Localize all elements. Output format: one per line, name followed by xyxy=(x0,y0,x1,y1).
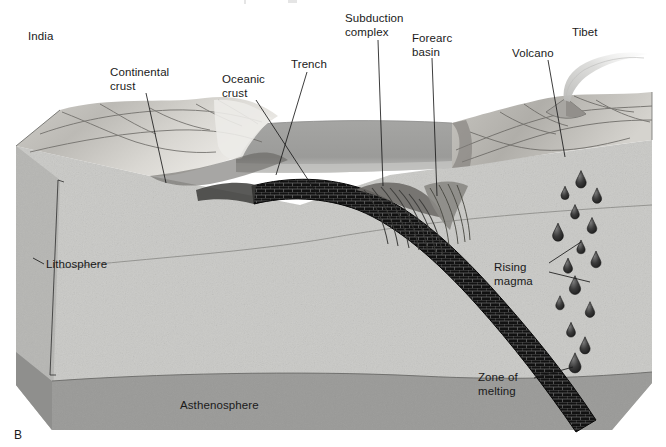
label-zone-of-melting: Zone ofmelting xyxy=(478,371,518,398)
label-subduction-complex-line2: complex xyxy=(345,26,389,38)
label-continental-crust-line2: crust xyxy=(110,80,135,92)
label-india: India xyxy=(28,30,53,44)
figure-letter: B xyxy=(14,428,22,442)
label-continental-crust-line1: Continental xyxy=(110,66,169,78)
label-trench: Trench xyxy=(291,58,327,72)
label-forearc-basin-line1: Forearc xyxy=(412,32,452,44)
scan-artifact-marks xyxy=(244,0,297,4)
label-rising-magma: Risingmagma xyxy=(494,261,533,288)
label-tibet: Tibet xyxy=(572,26,598,40)
label-oceanic-crust-line1: Oceanic xyxy=(222,73,265,85)
label-lithosphere: Lithosphere xyxy=(46,258,107,272)
label-forearc-basin-line2: basin xyxy=(412,46,440,58)
label-oceanic-crust: Oceaniccrust xyxy=(222,73,265,100)
label-subduction-complex: Subductioncomplex xyxy=(345,12,404,39)
block-diagram-svg xyxy=(0,0,666,447)
label-oceanic-crust-line2: crust xyxy=(222,87,247,99)
label-zone-of-melting-line1: Zone of xyxy=(478,371,518,383)
figure-canvas: India Tibet Continentalcrust Oceaniccrus… xyxy=(0,0,666,447)
label-zone-of-melting-line2: melting xyxy=(478,385,516,397)
label-rising-magma-line2: magma xyxy=(494,275,533,287)
label-asthenosphere: Asthenosphere xyxy=(180,399,259,413)
label-subduction-complex-line1: Subduction xyxy=(345,12,404,24)
label-continental-crust: Continentalcrust xyxy=(110,66,169,93)
label-rising-magma-line1: Rising xyxy=(494,261,527,273)
label-forearc-basin: Forearcbasin xyxy=(412,32,452,59)
label-volcano: Volcano xyxy=(512,47,554,61)
